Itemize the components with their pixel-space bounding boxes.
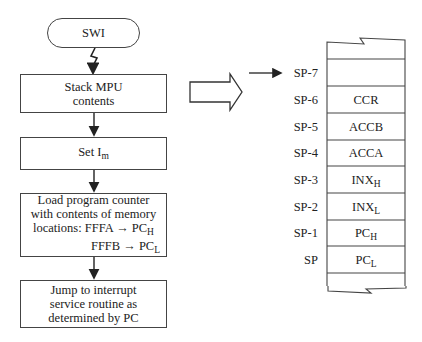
interrupt-connector-icon — [91, 48, 97, 72]
flow-step-jump: Jump to interrupt service routine as det… — [20, 280, 167, 328]
stack-label: SP-5 — [268, 120, 318, 135]
cell-subscript: L — [371, 259, 377, 269]
stack-cell: PCL — [327, 253, 405, 269]
stack-cell: INXH — [327, 173, 405, 189]
step-subscript: m — [101, 151, 108, 161]
stack-label: SP-7 — [268, 66, 318, 81]
stack-label: SP — [268, 253, 318, 268]
arrow-icon: → — [123, 239, 136, 253]
step-text: service routine as — [50, 297, 137, 311]
step-text: with contents of memory — [31, 207, 156, 221]
flow-step-set-im: Set Im — [20, 137, 167, 170]
flow-start-terminal: SWI — [47, 18, 140, 48]
stack-label: SP-3 — [268, 173, 318, 188]
step-text: contents — [73, 94, 115, 108]
stack-label: SP-1 — [268, 226, 318, 241]
cell-main: PC — [355, 253, 370, 267]
subscript: H — [147, 227, 154, 237]
step-text: Set Im — [78, 145, 109, 163]
flow-step-stack-mpu: Stack MPU contents — [20, 74, 167, 113]
hollow-arrow-icon — [190, 74, 242, 110]
stack-label: SP-6 — [268, 93, 318, 108]
step-text: Load program counter — [38, 193, 150, 207]
cell-main: PC — [355, 226, 370, 240]
cell-subscript: L — [374, 206, 380, 216]
stack-label: SP-4 — [268, 146, 318, 161]
cell-subscript: H — [370, 232, 377, 242]
step-text: locations: FFFA → PCH — [33, 221, 154, 239]
stack-cell: ACCA — [327, 146, 405, 161]
step-main: Set I — [78, 145, 101, 159]
step-text: determined by PC — [48, 311, 138, 325]
start-label: SWI — [82, 26, 105, 40]
stack-cell: ACCB — [327, 120, 405, 135]
step-text: Jump to interrupt — [50, 283, 136, 297]
fffa-label: locations: FFFA — [33, 221, 113, 235]
cell-main: INX — [352, 200, 374, 214]
step-text: FFFB → PCL — [91, 239, 166, 257]
stack-cell: PCH — [327, 226, 405, 242]
stack-label: SP-2 — [268, 200, 318, 215]
stack-cell: INXL — [327, 200, 405, 216]
cell-subscript: H — [374, 179, 381, 189]
arrow-icon: → — [116, 221, 129, 235]
stack-cell: CCR — [327, 93, 405, 108]
subscript: L — [154, 245, 160, 255]
pc-label: PC — [139, 239, 154, 253]
flow-step-load-pc: Load program counter with contents of me… — [20, 193, 167, 257]
fffb-label: FFFB — [91, 239, 120, 253]
cell-main: INX — [351, 173, 373, 187]
step-text: Stack MPU — [65, 80, 123, 94]
pc-label: PC — [132, 221, 147, 235]
